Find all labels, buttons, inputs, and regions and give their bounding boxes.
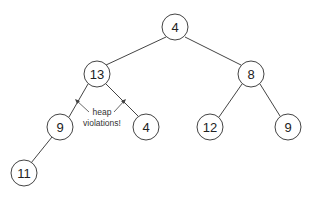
node-value: 4 (171, 20, 178, 35)
annotation-line1: heap (93, 107, 112, 117)
node-root: 4 (162, 14, 188, 40)
node-left-left-left: 11 (11, 160, 37, 186)
node-value: 4 (142, 120, 149, 135)
node-left: 13 (84, 61, 110, 87)
annotation: heap violations! (75, 99, 126, 128)
annotation-line2: violations! (83, 118, 121, 128)
node-right-right: 9 (275, 114, 301, 140)
edge-4-13 (106, 37, 166, 65)
node-left-left: 9 (47, 114, 73, 140)
node-right-left: 12 (197, 114, 223, 140)
node-value: 13 (90, 67, 104, 82)
node-left-right: 4 (133, 114, 159, 140)
node-value: 8 (247, 67, 254, 82)
node-value: 9 (56, 120, 63, 135)
edge-4-8 (185, 37, 241, 65)
edge-9-11 (31, 137, 52, 163)
node-value: 12 (203, 120, 217, 135)
heap-diagram: heap violations! 4 13 8 9 4 12 9 11 (0, 0, 316, 199)
node-value: 11 (17, 166, 31, 181)
edge-8-12 (219, 84, 242, 117)
node-value: 9 (284, 120, 291, 135)
node-right: 8 (238, 61, 264, 87)
edges (31, 37, 280, 163)
edge-8-9 (260, 84, 280, 116)
